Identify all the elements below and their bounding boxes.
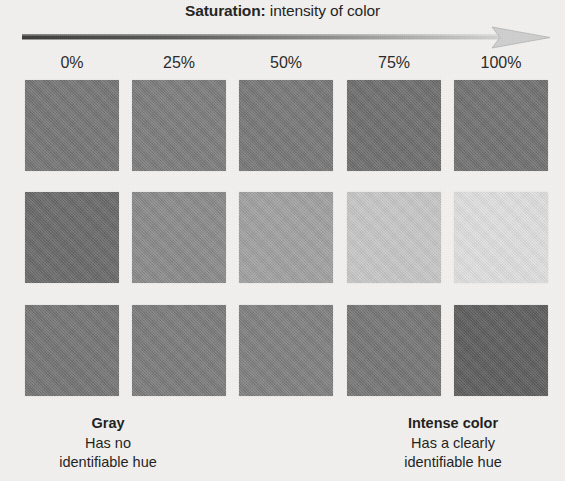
swatch-r3-c4 [347,305,441,396]
caption-intense-line2: identifiable hue [353,453,553,472]
swatch-r1-c1 [25,80,119,171]
swatch-r1-c4 [347,80,441,171]
swatch-r2-c5 [454,192,548,283]
swatch-r1-c3 [239,80,333,171]
caption-gray-heading: Gray [8,414,208,433]
swatch-r2-c4 [347,192,441,283]
swatch-r1-c5 [454,80,548,171]
caption-intense-line1: Has a clearly [353,434,553,453]
caption-gray: Gray Has no identifiable hue [8,414,208,471]
swatch-r3-c2 [132,305,226,396]
caption-intense-heading: Intense color [353,414,553,433]
swatch-r2-c2 [132,192,226,283]
saturation-figure: Saturation: intensity of color [0,0,565,481]
swatch-grid [0,0,565,481]
swatch-r2-c3 [239,192,333,283]
swatch-r2-c1 [25,192,119,283]
caption-intense-color: Intense color Has a clearly identifiable… [353,414,553,471]
swatch-r1-c2 [132,80,226,171]
caption-gray-line2: identifiable hue [8,453,208,472]
caption-gray-line1: Has no [8,434,208,453]
swatch-r3-c1 [25,305,119,396]
swatch-r3-c3 [239,305,333,396]
swatch-r3-c5 [454,305,548,396]
